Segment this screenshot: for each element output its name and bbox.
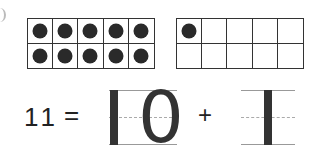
counter-dot — [83, 48, 98, 63]
tens-digit-zero: 0 — [138, 90, 174, 145]
ten-frame-cell — [253, 44, 278, 69]
ten-frame-cell — [78, 44, 103, 69]
ten-frame-cell — [78, 19, 103, 44]
ones-writing-area — [241, 90, 295, 145]
ten-frame-cell — [227, 44, 252, 69]
counter-dot — [134, 23, 149, 38]
counter-dot — [108, 23, 123, 38]
total-number: 11 — [24, 104, 59, 130]
tens-digit-one — [110, 90, 118, 145]
ten-frame-left — [27, 18, 155, 69]
tens-writing-area: 0 — [109, 90, 177, 145]
ten-frame-cell — [177, 44, 202, 69]
counter-dot — [58, 48, 73, 63]
equals-sign: = — [64, 102, 79, 128]
counter-dot — [108, 48, 123, 63]
ten-frame-cell — [104, 44, 129, 69]
ten-frame-cell — [129, 19, 154, 44]
ten-frame-cell — [227, 19, 252, 44]
ten-frame-cell — [278, 44, 303, 69]
plus-sign: + — [198, 103, 212, 127]
counter-dot — [83, 23, 98, 38]
ten-frame-cell — [28, 19, 53, 44]
counter-dot — [33, 48, 48, 63]
ten-frame-cell — [278, 19, 303, 44]
ten-frame-cell — [53, 44, 78, 69]
counter-dot — [33, 23, 48, 38]
ten-frame-right — [176, 18, 304, 69]
ten-frame-cell — [53, 19, 78, 44]
ones-digit-one — [264, 90, 272, 145]
ten-frame-cell — [104, 19, 129, 44]
ten-frame-cell — [177, 19, 202, 44]
ten-frame-cell — [28, 44, 53, 69]
ten-frame-cell — [129, 44, 154, 69]
ten-frame-cell — [202, 44, 227, 69]
counter-dot — [134, 48, 149, 63]
ten-frame-cell — [253, 19, 278, 44]
ten-frame-cell — [202, 19, 227, 44]
problem-number-mark — [0, 8, 6, 22]
counter-dot — [182, 23, 197, 38]
counter-dot — [58, 23, 73, 38]
